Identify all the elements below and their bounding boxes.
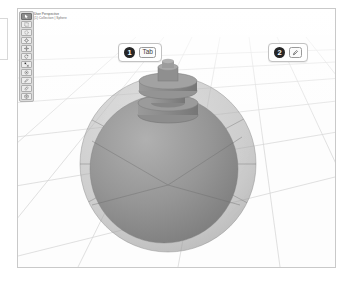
tool-button-cursor[interactable] bbox=[21, 37, 32, 44]
tool-button-tweak[interactable] bbox=[21, 13, 32, 20]
step-badge-2: 2 bbox=[274, 47, 285, 58]
tool-button-annotate[interactable] bbox=[21, 77, 32, 84]
viewport-info-overlay: User Perspective (1) Collection | Sphere bbox=[34, 12, 67, 20]
keycap-tab[interactable]: Tab bbox=[139, 47, 156, 58]
tool-button-add-cube[interactable] bbox=[21, 93, 32, 100]
tool-shelf[interactable] bbox=[19, 11, 34, 102]
tool-button-scale[interactable] bbox=[21, 61, 32, 68]
tool-button-transform[interactable] bbox=[21, 69, 32, 76]
tool-button-move[interactable] bbox=[21, 45, 32, 52]
callout-step-1[interactable]: 1 Tab bbox=[118, 43, 162, 62]
callout-step-2[interactable]: 2 bbox=[268, 43, 308, 62]
tool-button-select-circle[interactable] bbox=[21, 29, 32, 36]
viewport-collection-label: (1) Collection | Sphere bbox=[34, 16, 67, 20]
pencil-icon bbox=[292, 49, 299, 56]
keycap-pencil[interactable] bbox=[289, 47, 302, 58]
step-badge-1: 1 bbox=[124, 47, 135, 58]
tool-button-measure[interactable] bbox=[21, 85, 32, 92]
adjacent-panel-sliver bbox=[0, 18, 8, 60]
tool-button-select-box[interactable] bbox=[21, 21, 32, 28]
tool-button-rotate[interactable] bbox=[21, 53, 32, 60]
